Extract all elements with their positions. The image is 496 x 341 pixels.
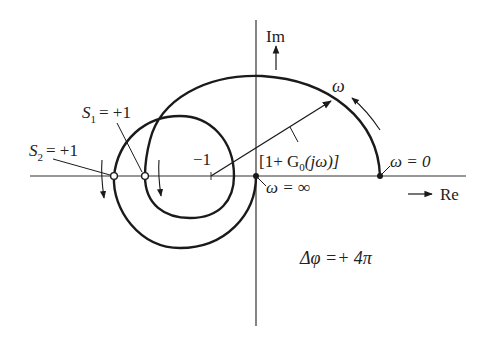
omega-inf-label: ω = ∞: [266, 178, 310, 197]
imag-axis-label: Im: [266, 27, 285, 46]
minus-one-label: −1: [193, 150, 211, 169]
nyquist-curve: [114, 76, 380, 248]
crossing-point-s2: [111, 173, 118, 180]
s2-label: S2= +1: [29, 141, 78, 163]
nyquist-diagram: Im Re −1 ω [1+ G0(jω)] ω = 0 ω = ∞ S1= +…: [0, 0, 496, 341]
s2-direction-arrow-icon: [102, 160, 104, 198]
direction-arrow-icon: [352, 98, 380, 130]
vector-label: [1+ G0(jω)]: [259, 152, 339, 173]
omega-inf-leader: [258, 178, 266, 186]
omega-inf-point: [253, 173, 259, 179]
s1-label: S1= +1: [82, 103, 131, 125]
omega-zero-label: ω = 0: [390, 152, 431, 171]
crossing-point-s1: [142, 173, 149, 180]
omega-label: ω: [332, 76, 345, 96]
phase-change-label: Δφ =+ 4π: [299, 248, 373, 268]
s1-direction-arrow-icon: [159, 160, 161, 196]
vector-leader: [290, 127, 298, 142]
real-axis-label: Re: [440, 185, 459, 204]
omega-zero-point: [377, 173, 383, 179]
omega-zero-leader: [382, 166, 390, 174]
